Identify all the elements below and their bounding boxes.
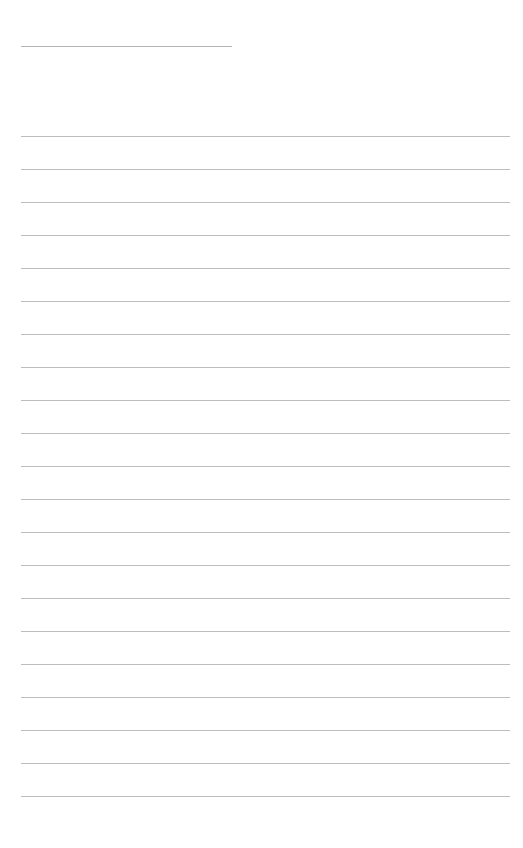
- ruled-line[interactable]: [21, 301, 510, 334]
- ruled-line[interactable]: [21, 565, 510, 598]
- ruled-line[interactable]: [21, 400, 510, 433]
- title-line[interactable]: [21, 46, 232, 47]
- ruled-line[interactable]: [21, 730, 510, 763]
- ruled-line[interactable]: [21, 334, 510, 367]
- ruled-line[interactable]: [21, 598, 510, 631]
- ruled-line[interactable]: [21, 136, 510, 169]
- ruled-line[interactable]: [21, 763, 510, 796]
- ruled-line[interactable]: [21, 499, 510, 532]
- ruled-line[interactable]: [21, 466, 510, 499]
- ruled-line[interactable]: [21, 268, 510, 301]
- ruled-line[interactable]: [21, 169, 510, 202]
- ruled-line[interactable]: [21, 433, 510, 466]
- ruled-line[interactable]: [21, 796, 510, 829]
- ruled-line[interactable]: [21, 664, 510, 697]
- ruled-line[interactable]: [21, 631, 510, 664]
- ruled-line[interactable]: [21, 202, 510, 235]
- ruled-line[interactable]: [21, 367, 510, 400]
- ruled-line[interactable]: [21, 532, 510, 565]
- ruled-lines: [21, 136, 510, 829]
- ruled-line[interactable]: [21, 697, 510, 730]
- ruled-line[interactable]: [21, 235, 510, 268]
